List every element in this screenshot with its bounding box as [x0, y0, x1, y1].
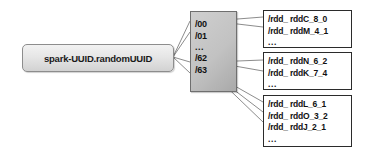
diagram-canvas: spark-UUID.randomUUID /00 /01 ... /62 /6…	[0, 0, 368, 157]
connector-root-to-01	[173, 32, 190, 57]
file-list-item[interactable]: /rdd_ rddK_7_4	[268, 68, 351, 80]
connector-root-to-63	[173, 57, 190, 73]
hash-dir-item-01[interactable]: /01	[195, 30, 236, 42]
file-list-item[interactable]: /rdd_ rddM_4_1	[268, 26, 351, 38]
root-directory-box[interactable]: spark-UUID.randomUUID	[22, 44, 174, 72]
root-directory-label: spark-UUID.randomUUID	[44, 53, 152, 64]
file-list-box-group-62[interactable]: /rdd_ rddN_6_2 /rdd_ rddK_7_4 ...	[263, 52, 352, 90]
file-list-ellipsis: ...	[268, 79, 351, 90]
file-list-item[interactable]: /rdd_ rddJ_2_1	[268, 122, 351, 134]
connector-root-to-00	[173, 21, 190, 57]
connector-root-to-62	[173, 57, 190, 62]
file-list-item[interactable]: /rdd_ rddL_6_1	[268, 99, 351, 111]
file-list-item[interactable]: /rdd_ rddN_6_2	[268, 56, 351, 68]
file-list-ellipsis: ...	[268, 134, 351, 145]
file-list-item[interactable]: /rdd_ rddO_3_2	[268, 111, 351, 123]
hash-directory-box[interactable]: /00 /01 ... /62 /63	[190, 11, 237, 92]
file-list-box-group-00[interactable]: /rdd_ rddC_8_0 /rdd_ rddM_4_1 ...	[263, 10, 352, 48]
hash-dir-item-63[interactable]: /63	[195, 64, 236, 76]
hash-dir-item-ellipsis: ...	[195, 42, 236, 52]
hash-dir-item-62[interactable]: /62	[195, 52, 236, 64]
file-list-ellipsis: ...	[268, 37, 351, 48]
file-list-item[interactable]: /rdd_ rddC_8_0	[268, 14, 351, 26]
hash-dir-item-00[interactable]: /00	[195, 18, 236, 30]
file-list-box-group-63[interactable]: /rdd_ rddL_6_1 /rdd_ rddO_3_2 /rdd_ rddJ…	[263, 95, 352, 147]
